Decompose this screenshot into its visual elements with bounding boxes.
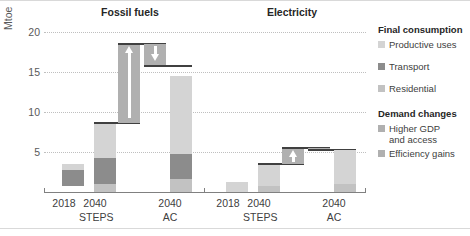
bar-segment-fossil-ac-transport: [170, 154, 192, 180]
connector-fossil-efficiency-to-ac: [144, 65, 192, 67]
legend-item-efficiency-gains[interactable]: Efficiency gains: [378, 148, 470, 159]
x-axis-right-cap: [365, 188, 366, 193]
legend-item-productive-uses[interactable]: Productive uses: [378, 39, 470, 50]
figure-bottom-border: [0, 228, 470, 229]
panel-title-electricity: Electricity: [232, 6, 352, 18]
x-sublabel-fossil-steps: STEPS: [79, 211, 111, 223]
legend-label-higher-gdp-line2: and access: [389, 134, 437, 145]
y-tick-label-10: 10: [10, 106, 40, 118]
x-label-electricity-2040-ac: 2040: [318, 197, 350, 209]
legend-swatch-productive-uses: [378, 41, 385, 48]
legend-item-higher-gdp[interactable]: Higher GDP and access: [378, 123, 470, 145]
x-sublabel-fossil-ac: AC: [154, 211, 186, 223]
bar-segment-fossil-steps-transport: [94, 158, 116, 184]
x-axis-left-cap: [44, 188, 45, 193]
legend-swatch-residential: [378, 85, 385, 92]
bar-segment-fossil-ac-productive: [170, 76, 192, 154]
legend-heading-final-consumption: Final consumption: [378, 24, 470, 35]
bar-segment-electricity-ac-residential: [334, 184, 356, 192]
bar-segment-fossil-steps-residential: [94, 184, 116, 192]
legend-swatch-higher-gdp: [378, 125, 385, 132]
plot-area: [44, 22, 366, 192]
panel-title-fossil-fuels: Fossil fuels: [60, 6, 200, 18]
legend-heading-demand-changes: Demand changes: [378, 108, 470, 119]
x-axis-baseline: [44, 192, 366, 193]
bar-segment-electricity-steps-productive: [258, 164, 280, 186]
chart-figure: Mtoe Fossil fuels Electricity: [0, 0, 470, 236]
legend-label-transport: Transport: [389, 61, 429, 72]
y-tick-label-5: 5: [10, 146, 40, 158]
x-label-electricity-2018: 2018: [212, 197, 244, 209]
figure-top-border: [0, 0, 470, 1]
bar-segment-electricity-2018-productive: [226, 182, 248, 192]
x-label-fossil-2040-steps: 2040: [79, 197, 111, 209]
arrow-down-icon-fossil-efficiency: [151, 54, 159, 61]
x-label-electricity-2040-steps: 2040: [243, 197, 275, 209]
bar-segment-electricity-ac-productive: [334, 150, 356, 184]
legend-item-transport[interactable]: Transport: [378, 61, 470, 72]
legend-label-efficiency-gains: Efficiency gains: [389, 148, 455, 159]
x-sublabel-electricity-steps: STEPS: [243, 211, 275, 223]
x-axis-mid-cap: [204, 188, 205, 193]
y-tick-label-20: 20: [10, 26, 40, 38]
legend: Final consumption Productive uses Transp…: [378, 24, 470, 162]
bar-segment-fossil-2018-productive: [62, 164, 84, 170]
gridline-15: [44, 72, 366, 73]
legend-label-higher-gdp-line1: Higher GDP: [389, 123, 440, 134]
bar-segment-fossil-2018-transport: [62, 170, 84, 187]
bar-segment-fossil-ac-residential: [170, 179, 192, 192]
x-sublabel-electricity-ac: AC: [318, 211, 350, 223]
gridline-20: [44, 32, 366, 33]
x-label-fossil-2040-ac: 2040: [154, 197, 186, 209]
bar-segment-fossil-steps-productive: [94, 123, 116, 157]
legend-group-demand-changes: Demand changes Higher GDP and access Eff…: [378, 108, 470, 159]
arrow-stem-fossil-higher-gdp: [128, 52, 131, 118]
gridline-10: [44, 112, 366, 113]
arrow-up-icon-fossil-higher-gdp: [125, 46, 133, 53]
arrow-up-icon-electricity-higher-gdp: [289, 150, 297, 157]
legend-label-residential: Residential: [389, 83, 436, 94]
legend-swatch-efficiency-gains: [378, 150, 385, 157]
legend-swatch-transport: [378, 63, 385, 70]
legend-item-residential[interactable]: Residential: [378, 83, 470, 94]
gridline-5: [44, 152, 366, 153]
y-tick-label-15: 15: [10, 66, 40, 78]
legend-label-productive-uses: Productive uses: [389, 39, 457, 50]
x-label-fossil-2018: 2018: [48, 197, 80, 209]
